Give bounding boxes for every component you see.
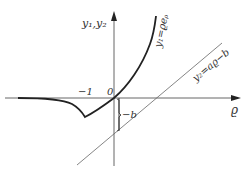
y-axis-label: y₁,y₂ [81,17,107,30]
x-tick-minus-one-label: −1 [78,86,93,97]
function-graph-diagram: y₁,y₂ ϱ 0 −1 −b y₁=ϱeᵨ y₂=aϱ−b [0,0,251,180]
minus-b-label: −b [122,109,137,120]
y1-curve-label: y₁=ϱeᵨ [152,13,170,49]
y1-curve [18,16,156,117]
x-axis-arrow-icon [231,95,241,101]
y-axis-arrow-icon [111,11,117,21]
x-axis-label: ϱ [231,103,238,117]
origin-label: 0 [107,86,114,97]
y2-line [77,43,222,165]
